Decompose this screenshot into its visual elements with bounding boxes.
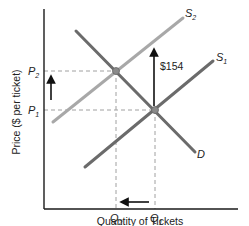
shift-label: $154 [160,60,184,72]
label-s1: S1 [216,51,227,65]
equilibrium-point-e2 [113,68,120,75]
equilibrium-point-e1 [152,107,159,114]
label-d: D [197,148,205,160]
chart: P2 P1 Q2 Q1 S2 S1 D $154 Price ($ per ti… [0,0,249,226]
y-tick-p2: P2 [28,65,39,79]
guide-lines [44,71,155,209]
y-tick-p1: P1 [28,104,39,118]
y-axis-title: Price ($ per ticket) [10,69,22,154]
label-s2: S2 [185,7,196,21]
x-axis-title: Quantity of Tickets [97,215,183,226]
